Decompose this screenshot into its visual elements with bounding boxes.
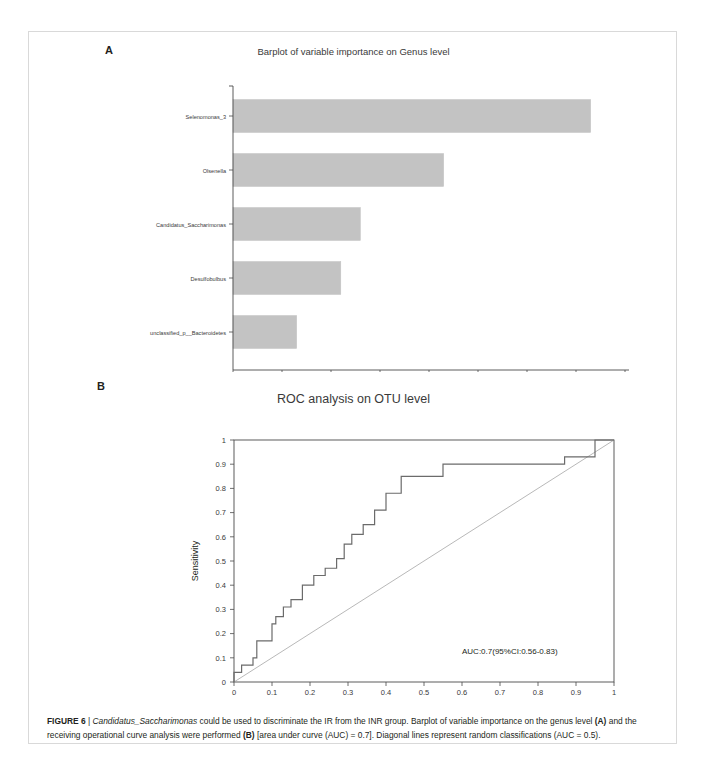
roc-y-tick-label-6: 0.6 [216, 533, 226, 542]
bar-category-label-3: Desulfobulbus [191, 276, 227, 282]
bar-category-label-1: Olsenella [203, 168, 227, 174]
figure-container: A Barplot of variable importance on Genu… [28, 31, 677, 744]
roc-x-tick-label-0: 0 [232, 688, 236, 697]
bar-category-label-4: unclassified_p__Bacteroidetes [150, 330, 226, 336]
roc-y-tick-label-4: 0.4 [216, 581, 226, 590]
barplot-bars [233, 100, 591, 349]
caption-text-3: [area under curve (AUC) = 0.7]. Diagonal… [255, 730, 601, 740]
roc-y-tick-label-0: 0 [222, 678, 226, 687]
roc-x-tick-label-9: 0.9 [571, 688, 581, 697]
caption-bold-a: (A) [595, 716, 607, 726]
bar-0 [233, 100, 591, 133]
roc-x-tick-label-5: 0.5 [419, 688, 429, 697]
roc-y-tick-label-1: 0.1 [216, 654, 226, 663]
bar-category-label-2: Candidatus_Saccharimonas [156, 222, 226, 228]
panel-b-roc: B ROC analysis on OTU level 00.10.20.30.… [29, 372, 678, 702]
roc-y-tick-label-8: 0.8 [216, 484, 226, 493]
caption-text-1: could be used to discriminate the IR fro… [197, 716, 595, 726]
figure-caption: FIGURE 6 | Candidatus_Saccharimonas coul… [47, 714, 659, 742]
roc-auc-annotation: AUC:0.7(95%CI:0.56-0.83) [462, 647, 558, 656]
roc-x-tick-label-10: 1 [612, 688, 616, 697]
roc-y-tick-label-3: 0.3 [216, 605, 226, 614]
roc-x-tick-label-3: 0.3 [343, 688, 353, 697]
roc-y-axis-label: Sensitivity [190, 540, 200, 581]
roc-y-tick-label-10: 1 [222, 436, 226, 445]
barplot-svg: Selenomonas_3OlsenellaCandidatus_Sacchar… [29, 32, 678, 372]
roc-y-tick-label-9: 0.9 [216, 460, 226, 469]
bar-1 [233, 154, 444, 187]
bar-3 [233, 262, 341, 295]
roc-x-tick-label-4: 0.4 [381, 688, 391, 697]
roc-y-tick-label-2: 0.2 [216, 629, 226, 638]
panel-a-barplot: A Barplot of variable importance on Genu… [29, 32, 678, 372]
barplot-category-labels: Selenomonas_3OlsenellaCandidatus_Sacchar… [150, 114, 233, 336]
roc-x-tick-label-1: 0.1 [267, 688, 277, 697]
roc-x-tick-label-7: 0.7 [495, 688, 505, 697]
caption-figure-number: FIGURE 6 [47, 716, 86, 726]
roc-x-tick-label-8: 0.8 [533, 688, 543, 697]
roc-svg: 00.10.20.30.40.50.60.70.80.9100.10.20.30… [29, 372, 678, 702]
bar-4 [233, 316, 297, 349]
roc-x-tick-label-6: 0.6 [457, 688, 467, 697]
caption-italic-taxon: Candidatus_Saccharimonas [92, 716, 197, 726]
bar-category-label-0: Selenomonas_3 [186, 114, 226, 120]
caption-bold-b: (B) [243, 730, 255, 740]
roc-x-tick-label-2: 0.2 [305, 688, 315, 697]
bar-2 [233, 208, 360, 241]
roc-y-tick-label-5: 0.5 [216, 557, 226, 566]
roc-y-tick-label-7: 0.7 [216, 508, 226, 517]
